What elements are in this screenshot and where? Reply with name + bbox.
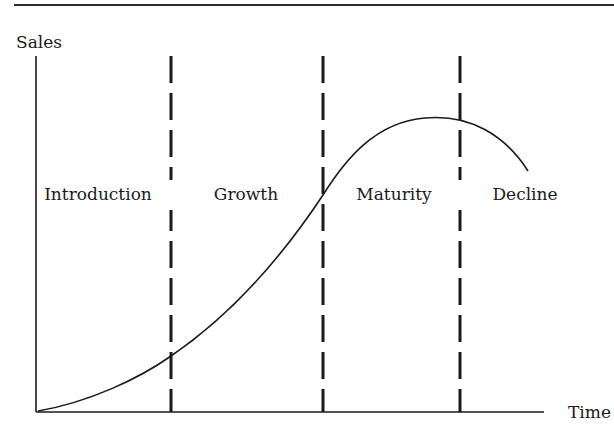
product-life-cycle-diagram: Sales Time Introduction Growth Maturity … bbox=[0, 0, 614, 440]
stage-label-decline: Decline bbox=[492, 184, 557, 204]
stage-label-maturity: Maturity bbox=[356, 184, 432, 204]
sales-curve bbox=[38, 118, 528, 411]
stage-label-introduction: Introduction bbox=[44, 184, 152, 204]
y-axis-label: Sales bbox=[16, 32, 62, 52]
x-axis-label: Time bbox=[568, 402, 611, 422]
label-gap-3 bbox=[449, 180, 471, 210]
label-gap-1 bbox=[160, 180, 182, 210]
stage-label-growth: Growth bbox=[214, 184, 278, 204]
